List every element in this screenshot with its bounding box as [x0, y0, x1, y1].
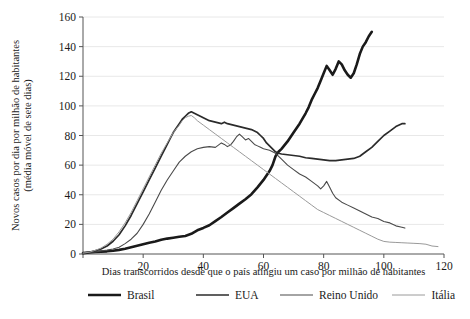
y-tick-label: 100: [59, 100, 77, 112]
grid-lines: [83, 17, 444, 224]
y-tick-label: 160: [59, 11, 77, 23]
y-axis-title-line2: (média móvel de sete dias): [22, 79, 34, 192]
y-axis-title: Novos casos por dia por milhão de habita…: [10, 40, 34, 231]
line-chart: 020406080100120140160 20406080100120 Nov…: [0, 0, 470, 319]
legend-label-itlia: Itália: [431, 289, 455, 301]
x-axis-title: Dias transcorridos desde que o país atin…: [102, 266, 426, 277]
y-tick-label: 20: [65, 218, 77, 230]
y-tick-label: 120: [59, 70, 77, 82]
x-tick-label: 120: [435, 260, 453, 272]
data-series: [83, 32, 438, 253]
y-tick-label: 60: [65, 159, 77, 171]
legend-label-reino-unido: Reino Unido: [319, 289, 378, 301]
chart-legend: BrasilEUAReino UnidoItália: [88, 289, 455, 301]
series-line-reino-unido: [83, 134, 405, 253]
y-tick-label: 40: [65, 189, 77, 201]
y-tick-label: 80: [65, 130, 77, 142]
y-axis-title-line1: Novos casos por dia por milhão de habita…: [10, 40, 21, 231]
series-line-eua: [83, 112, 405, 253]
y-tick-label: 140: [59, 41, 77, 53]
legend-label-eua: EUA: [235, 289, 259, 301]
y-axis-ticks: 020406080100120140160: [59, 11, 83, 260]
x-axis-title: Dias transcorridos desde que o país atin…: [102, 266, 426, 277]
y-tick-label: 0: [70, 248, 76, 260]
chart-figure: 020406080100120140160 20406080100120 Nov…: [0, 0, 470, 319]
legend-label-brasil: Brasil: [127, 289, 154, 301]
